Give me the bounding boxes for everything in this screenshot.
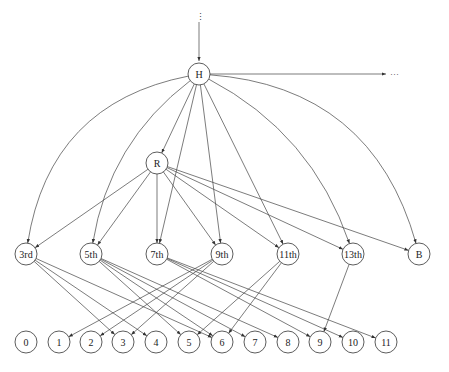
node-label: B	[416, 249, 423, 260]
node-label: 7	[253, 337, 258, 348]
top-ellipsis: ⋮	[196, 12, 205, 22]
node-b5: 5	[178, 331, 200, 353]
edge-n3-b6	[36, 259, 212, 338]
node-b9: 9	[309, 331, 331, 353]
node-label: 9th	[216, 249, 229, 260]
node-b10: 10	[342, 331, 364, 353]
node-label: 2	[89, 337, 94, 348]
node-n11: 11th	[277, 243, 299, 265]
node-n13: 13th	[342, 243, 364, 265]
right-ellipsis: ···	[390, 69, 399, 79]
curved-edge-H-n5	[93, 81, 190, 243]
node-n3: 3rd	[15, 243, 37, 265]
edge-R-B	[167, 167, 408, 251]
edge-H-R	[162, 84, 195, 153]
edge-R-n11	[166, 169, 279, 247]
edge-n5-b8	[101, 258, 278, 337]
node-label: 5	[187, 337, 192, 348]
node-label: 3rd	[19, 249, 32, 260]
node-n5: 5th	[80, 243, 102, 265]
ellipsis-edges: ⋮ ···	[196, 12, 399, 79]
node-label: R	[154, 158, 161, 169]
node-label: 1	[57, 337, 62, 348]
node-b8: 8	[277, 331, 299, 353]
node-n7: 7th	[146, 243, 168, 265]
nodes-layer: HR3rd5th7th9th11th13thB01234567891011	[15, 63, 430, 353]
node-b2: 2	[80, 331, 102, 353]
edge-R-n13	[167, 168, 343, 250]
node-H: H	[188, 63, 210, 85]
node-label: 10	[348, 337, 358, 348]
edge-R-n9	[163, 172, 215, 245]
edge-n11-b6	[229, 263, 282, 333]
edge-H-n9	[200, 85, 220, 243]
node-b6: 6	[211, 331, 233, 353]
node-b7: 7	[244, 331, 266, 353]
node-label: 4	[154, 337, 159, 348]
edge-n11-b5	[197, 261, 280, 334]
node-label: 5th	[85, 249, 98, 260]
node-label: H	[195, 69, 202, 80]
node-B: B	[408, 243, 430, 265]
edge-R-n3	[35, 169, 148, 247]
node-label: 9	[318, 337, 323, 348]
node-label: 13th	[344, 249, 362, 260]
node-label: 6	[220, 337, 225, 348]
edge-n9-b3	[131, 261, 214, 334]
node-label: 7th	[151, 249, 164, 260]
node-R: R	[146, 152, 168, 174]
node-b4: 4	[145, 331, 167, 353]
edge-n13-b9	[324, 264, 349, 331]
curved-edge-H-n13	[209, 79, 350, 243]
edge-n9-b1	[69, 259, 213, 337]
node-b1: 1	[48, 331, 70, 353]
node-label: 11	[381, 337, 391, 348]
node-b11: 11	[375, 331, 397, 353]
node-b3: 3	[112, 331, 134, 353]
node-b0: 0	[15, 331, 37, 353]
graph-diagram: ⋮ ··· HR3rd5th7th9th11th13thB01234567891…	[0, 0, 449, 372]
edges-layer	[28, 75, 416, 338]
edge-R-n5	[97, 172, 150, 245]
node-label: 0	[24, 337, 29, 348]
node-n9: 9th	[211, 243, 233, 265]
node-label: 11th	[279, 249, 296, 260]
edge-H-n11	[204, 84, 283, 244]
edge-n3-b3	[34, 261, 115, 334]
node-label: 8	[286, 337, 291, 348]
node-label: 3	[121, 337, 126, 348]
